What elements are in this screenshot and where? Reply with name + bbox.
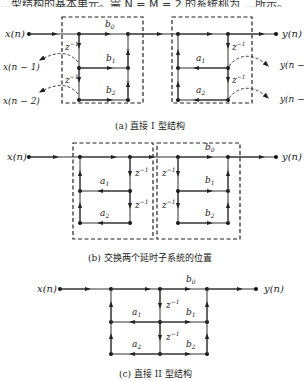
input-label-c: x(n) xyxy=(37,283,57,294)
delay-z4-b: z−1 xyxy=(161,198,176,210)
coef-a2-c: a2 xyxy=(132,339,141,350)
delay-z2-b: z−1 xyxy=(134,198,149,210)
signal-flow-diagrams: x(n) b0 z−1 z−1 b1 b2 xyxy=(0,0,307,381)
figure-c-direct-form-2: x(n) b0 y(n) z−1 z−1 a1 b1 xyxy=(37,274,284,379)
coef-b0: b0 xyxy=(105,19,115,30)
coef-a1: a1 xyxy=(196,53,205,64)
coef-b1-c: b1 xyxy=(186,307,196,318)
output-node xyxy=(274,32,278,36)
label-y-n-2: y(n − 2 xyxy=(279,94,307,104)
delay-z2-c: z−1 xyxy=(165,330,180,342)
delay-z2-a: z−1 xyxy=(64,73,79,85)
output-label: y(n) xyxy=(281,28,302,39)
coef-b0-b: b0 xyxy=(205,142,215,153)
output-label-c: y(n) xyxy=(263,283,284,294)
delay-z1-b: z−1 xyxy=(134,166,149,178)
delay-z3-a: z−1 xyxy=(231,40,246,52)
label-y-n-1: y(n − 1 xyxy=(279,60,307,70)
delay-z1-c: z−1 xyxy=(165,298,180,310)
feedback-subsystem-box xyxy=(172,17,252,103)
coef-a2: a2 xyxy=(196,85,205,96)
output-label-b: y(n) xyxy=(281,151,302,162)
figure-b-swapped: x(n) z−1 z−1 a1 a2 b0 xyxy=(7,142,302,263)
coef-a1-c: a1 xyxy=(132,307,141,318)
input-label: x(n) xyxy=(5,28,25,39)
caption-a: (a) 直接 I 型结构 xyxy=(115,120,185,131)
coef-a2-b: a2 xyxy=(100,208,109,219)
coef-b2: b2 xyxy=(106,85,116,96)
coef-b2-c: b2 xyxy=(186,339,196,350)
coef-b2-b: b2 xyxy=(205,208,215,219)
coef-b1: b1 xyxy=(106,53,116,64)
figure-a-direct-form-1: x(n) b0 z−1 z−1 b1 b2 xyxy=(3,17,307,131)
coef-a1-b: a1 xyxy=(100,176,109,187)
input-label-b: x(n) xyxy=(7,151,27,162)
label-x-n-2: x(n − 2) xyxy=(3,96,40,106)
delay-z1-a: z−1 xyxy=(64,40,79,52)
coef-b1-b: b1 xyxy=(205,175,215,186)
caption-c: (c) 直接 II 型结构 xyxy=(119,368,192,379)
delay-z4-a: z−1 xyxy=(231,73,246,85)
label-x-n-1: x(n − 1) xyxy=(3,62,40,72)
caption-b: (b) 交换两个延时子系统的位置 xyxy=(88,252,212,263)
coef-b0-c: b0 xyxy=(186,274,196,285)
delay-z3-b: z−1 xyxy=(161,166,176,178)
